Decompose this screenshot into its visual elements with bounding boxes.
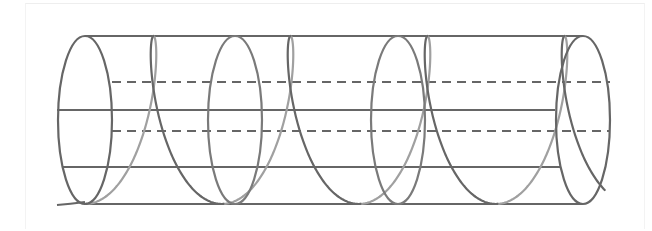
helix-start-tail [57,202,85,205]
helix-back-curve [86,36,156,204]
cylinder-cross-section-ellipse [371,36,425,204]
cylinder-guide-lines [57,36,610,204]
cylinder-cross-sections [58,36,610,204]
cylinder-cross-section-ellipse [208,36,262,204]
cylinder-end-ellipse [556,36,610,204]
helix-front-curve [151,36,224,204]
helix-front-segments [57,36,605,205]
helix-back-curve [223,36,293,204]
cylinder-end-ellipse [58,36,112,204]
helix-back-segments [86,36,567,204]
helix-front-curve [288,36,361,204]
helix-front-curve [425,36,498,204]
helix-cylinder-diagram [0,0,652,231]
